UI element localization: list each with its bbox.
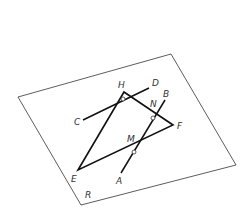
label-h: H bbox=[118, 80, 125, 90]
plane-r bbox=[18, 54, 236, 205]
label-b: B bbox=[163, 89, 169, 99]
geometry-diagram: H F E C D A B M N R bbox=[0, 0, 251, 219]
label-n: N bbox=[150, 99, 157, 109]
label-e: E bbox=[71, 174, 77, 184]
marker-on-HE-icon bbox=[121, 97, 125, 101]
label-r: R bbox=[85, 190, 91, 200]
label-f: F bbox=[177, 121, 183, 131]
marker-on-AB-icon bbox=[132, 150, 136, 154]
marker-N-icon bbox=[151, 116, 155, 120]
label-d: D bbox=[152, 78, 159, 88]
triangle-hfe bbox=[78, 92, 173, 170]
label-c: C bbox=[74, 117, 81, 127]
label-a: A bbox=[115, 176, 122, 186]
label-m: M bbox=[127, 134, 135, 144]
